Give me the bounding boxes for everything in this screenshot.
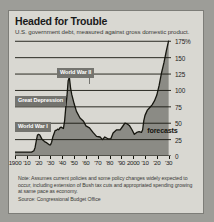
plot-area: 0255075100125150175% World War IGreat De…	[15, 38, 197, 168]
y-tick-label: 175%	[175, 38, 191, 45]
chart-note: Note: Assumes current policies and some …	[18, 175, 196, 195]
forecasts-label: forecasts	[147, 126, 177, 135]
x-tick-label: 1900	[9, 159, 22, 166]
annotation-great-depression: Great Depression	[15, 96, 66, 106]
x-tick-label: '90	[118, 159, 125, 166]
x-tick-label: '20	[35, 159, 42, 166]
annotation-leader-line	[61, 104, 62, 106]
x-tick-label: '10	[141, 159, 148, 166]
annotation-world-war-i: World War I	[15, 122, 51, 132]
y-axis-labels: 0255075100125150175%	[173, 38, 199, 156]
page-title: Headed for Trouble	[15, 15, 200, 27]
y-tick-label: 25	[175, 136, 182, 143]
y-tick-label: 100	[175, 87, 185, 94]
chart-source: Source: Congressional Budget Office	[18, 196, 196, 203]
x-tick-label: '30	[165, 159, 172, 166]
x-tick-label: '30	[47, 159, 54, 166]
y-tick-label: 150	[175, 54, 185, 61]
chart-figure: Headed for Trouble U.S. government debt,…	[8, 10, 204, 214]
y-tick-label: 125	[175, 71, 185, 78]
x-tick-label: '60	[82, 159, 89, 166]
annotation-leader-line	[89, 76, 90, 84]
x-tick-label: '50	[70, 159, 77, 166]
x-tick-label: '70	[94, 159, 101, 166]
y-tick-label: 0	[175, 153, 178, 160]
x-tick-label: '10	[23, 159, 30, 166]
x-axis-labels: 1900'10'20'30'40'50'60'70'80'902000'10'2…	[15, 156, 171, 170]
y-tick-label: 75	[175, 103, 182, 110]
x-tick-label: 2000	[127, 159, 140, 166]
chart-subtitle: U.S. government debt, measured against g…	[15, 28, 200, 36]
x-tick-label: '80	[106, 159, 113, 166]
x-tick-label: '40	[59, 159, 66, 166]
x-tick-label: '20	[153, 159, 160, 166]
